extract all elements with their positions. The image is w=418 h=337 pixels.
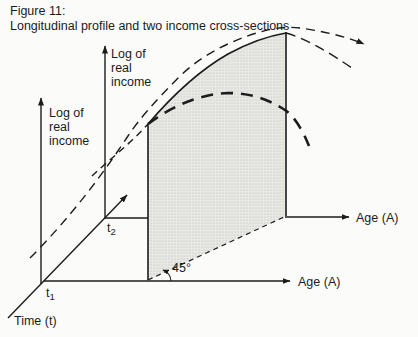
cohort-curve-falloff [286, 33, 356, 71]
t2-tick-label: t2 [107, 221, 116, 237]
log-income-label-t2-line1: Log of [111, 47, 146, 61]
figure-caption: Longitudinal profile and two income cros… [10, 19, 289, 33]
age-axis-label-t2: Age (A) [356, 211, 398, 225]
figure-number: Figure 11: [10, 4, 65, 18]
log-income-label-t1-line2: real [49, 120, 70, 134]
diagram-canvas: Figure 11: Longitudinal profile and two … [0, 0, 418, 337]
time-axis-label: Time (t) [14, 314, 57, 328]
t1-tick-label: t1 [46, 286, 55, 302]
time-axis [8, 195, 127, 318]
angle-45-label: 45° [172, 261, 191, 275]
cohort-curve-leadin [92, 124, 148, 176]
log-income-label-t1-line1: Log of [49, 106, 84, 120]
log-income-label-t1-line3: income [49, 134, 89, 148]
age-axis-label-t1: Age (A) [298, 275, 340, 289]
log-income-label-t2-line3: income [111, 75, 151, 89]
log-income-label-t2-line2: real [111, 61, 132, 75]
shaded-band [148, 33, 286, 280]
figure-11-diagram: Figure 11: Longitudinal profile and two … [0, 0, 418, 337]
